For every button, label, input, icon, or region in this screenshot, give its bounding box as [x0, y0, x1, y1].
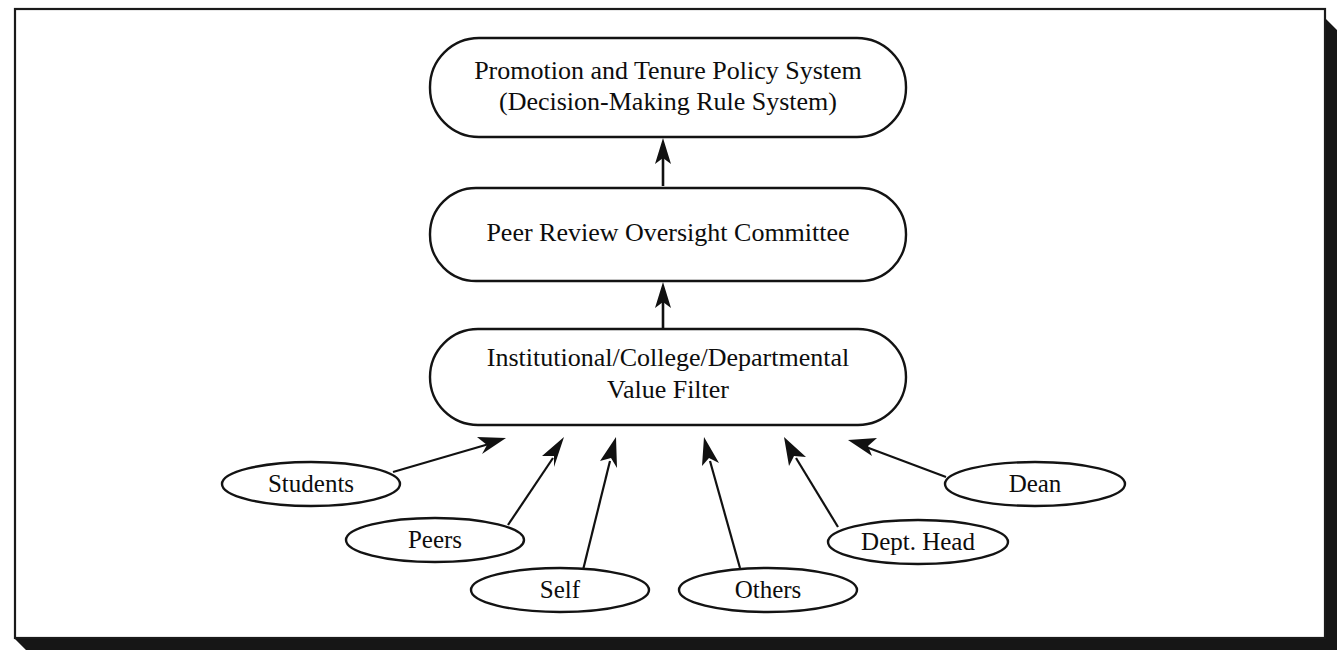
node-oversight-committee[interactable]: Peer Review Oversight Committee	[430, 188, 906, 281]
policy-system-label-line2: (Decision-Making Rule System)	[499, 87, 837, 116]
edge-dept-head-to-filter	[784, 437, 838, 527]
edge-peers-line	[508, 458, 553, 525]
node-peers[interactable]: Peers	[346, 518, 524, 562]
node-dean[interactable]: Dean	[945, 462, 1125, 506]
others-label: Others	[735, 576, 802, 603]
edge-self-to-filter	[583, 437, 617, 570]
edge-dean-arrowhead	[848, 438, 877, 456]
peers-label: Peers	[408, 526, 462, 553]
edge-others-line	[710, 461, 740, 568]
edge-committee-to-policy	[655, 138, 671, 186]
edge-others-to-filter	[702, 437, 740, 568]
edge-filter-to-committee	[655, 282, 671, 329]
figure-container: Promotion and Tenure Policy System (Deci…	[0, 0, 1343, 659]
node-dept-head[interactable]: Dept. Head	[828, 520, 1008, 564]
diagram-canvas: Promotion and Tenure Policy System (Deci…	[0, 0, 1343, 659]
node-others[interactable]: Others	[679, 568, 857, 612]
node-students[interactable]: Students	[222, 462, 400, 506]
edge-dept-head-arrowhead	[784, 437, 806, 466]
node-policy-system[interactable]: Promotion and Tenure Policy System (Deci…	[430, 38, 906, 137]
value-filter-label-line1: Institutional/College/Departmental	[487, 343, 849, 372]
edge-students-to-filter	[393, 437, 506, 472]
node-value-filter[interactable]: Institutional/College/Departmental Value…	[430, 329, 906, 425]
edge-peers-to-filter	[508, 437, 564, 525]
node-self[interactable]: Self	[471, 568, 649, 612]
students-label: Students	[268, 470, 354, 497]
edge-dean-to-filter	[848, 438, 946, 477]
edge-dept-head-line	[796, 458, 838, 527]
dean-label: Dean	[1009, 470, 1062, 497]
edge-self-line	[583, 461, 610, 570]
value-filter-label-line2: Value Filter	[607, 375, 729, 404]
self-label: Self	[540, 576, 581, 603]
dept-head-label: Dept. Head	[861, 528, 975, 555]
edge-students-line	[393, 444, 489, 472]
policy-system-label-line1: Promotion and Tenure Policy System	[474, 56, 862, 85]
oversight-committee-label: Peer Review Oversight Committee	[486, 218, 849, 247]
edge-peers-arrowhead	[542, 437, 564, 467]
edge-dean-line	[866, 447, 946, 477]
